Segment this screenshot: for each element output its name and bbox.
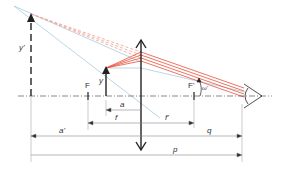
focal-point-front-label: F [85,82,90,90]
virtual-image-arrow [27,13,35,96]
eye-distance-label: q [207,127,211,135]
focal-point-back-label: F' [188,82,194,90]
focal-length-back-label: f' [165,114,169,122]
object-arrow [102,66,110,96]
total-distance-label: p [173,146,177,154]
image-height-label: y' [19,44,25,52]
optics-diagram [0,0,282,175]
angle-marker [197,78,201,96]
object-height-label: y [99,77,103,85]
object-distance-label: a [120,101,124,109]
image-distance-label: a' [59,127,65,135]
construction-lines [14,6,245,118]
angle-label: ω' [202,85,208,91]
real-rays [106,52,244,97]
focal-length-front-label: f [115,114,117,122]
virtual-ray-extensions [31,14,141,58]
